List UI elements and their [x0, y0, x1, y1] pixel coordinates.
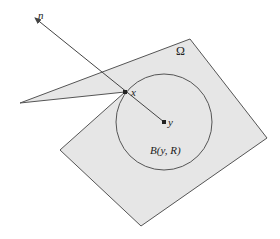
label-n: n	[38, 9, 44, 21]
label-omega: Ω	[176, 44, 185, 58]
diagram-canvas: n x y Ω B(y, R)	[0, 0, 280, 239]
label-y: y	[167, 116, 173, 128]
label-x: x	[130, 86, 136, 98]
label-ball: B(y, R)	[150, 144, 181, 157]
point-y-marker	[162, 120, 166, 124]
point-x-marker	[123, 90, 127, 94]
domain-omega-region	[20, 39, 267, 226]
